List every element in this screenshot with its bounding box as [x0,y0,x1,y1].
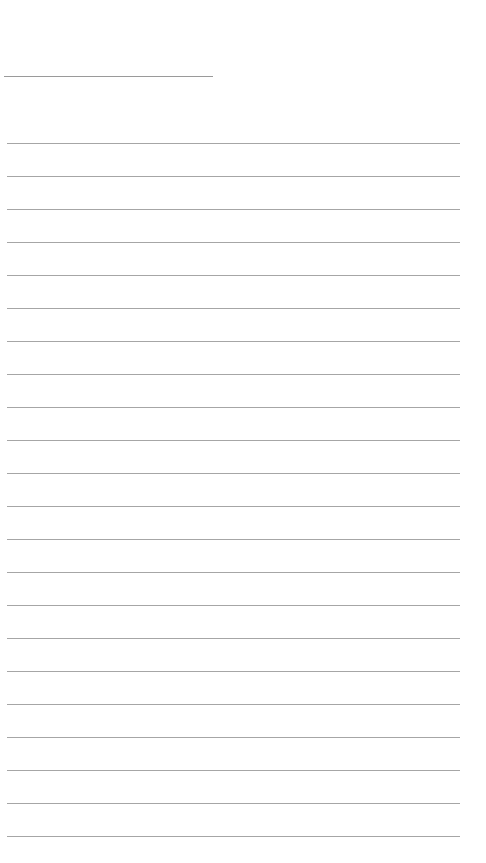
ruled-line[interactable] [7,374,460,375]
ruled-line[interactable] [7,770,460,771]
ruled-line[interactable] [7,836,460,837]
ruled-line[interactable] [7,803,460,804]
ruled-line[interactable] [7,275,460,276]
ruled-line[interactable] [7,737,460,738]
ruled-line[interactable] [7,176,460,177]
ruled-line[interactable] [7,704,460,705]
ruled-line[interactable] [7,242,460,243]
ruled-line[interactable] [7,671,460,672]
ruled-line[interactable] [7,506,460,507]
ruled-line[interactable] [7,539,460,540]
ruled-line[interactable] [7,440,460,441]
ruled-line[interactable] [7,605,460,606]
ruled-line[interactable] [7,308,460,309]
ruled-line[interactable] [7,143,460,144]
ruled-line[interactable] [7,638,460,639]
ruled-line[interactable] [7,407,460,408]
title-line[interactable] [4,76,213,77]
ruled-line[interactable] [7,473,460,474]
ruled-line[interactable] [7,209,460,210]
ruled-line[interactable] [7,341,460,342]
ruled-line[interactable] [7,572,460,573]
